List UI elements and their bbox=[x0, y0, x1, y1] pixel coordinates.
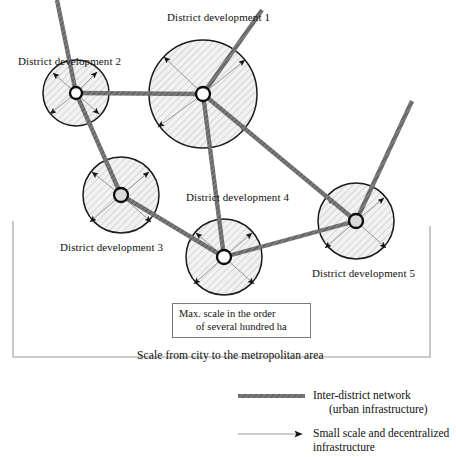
legend-item-inter-district: Inter-district network (urban infrastruc… bbox=[313, 388, 428, 416]
legend-inter-district-line-2: (urban infrastructure) bbox=[313, 402, 428, 416]
frame-caption: Scale from city to the metropolitan area bbox=[137, 349, 324, 362]
legend-small-scale-line-2: infrastructure bbox=[313, 440, 449, 454]
district-label-3: District development 3 bbox=[60, 241, 163, 254]
hub-node-3[interactable] bbox=[114, 188, 128, 202]
hub-node-5[interactable] bbox=[349, 214, 363, 228]
legend-item-small-scale: Small scale and decentralized infrastruc… bbox=[313, 426, 449, 454]
legend-symbols bbox=[238, 396, 305, 434]
max-scale-callout: Max. scale in the order of several hundr… bbox=[172, 303, 311, 338]
figure-canvas: District development 1 District developm… bbox=[0, 0, 456, 457]
max-scale-line-1: Max. scale in the order bbox=[179, 308, 276, 319]
hub-node-1[interactable] bbox=[196, 87, 210, 101]
link-dd2-dd1[interactable] bbox=[76, 93, 203, 94]
district-label-5: District development 5 bbox=[312, 267, 415, 280]
max-scale-line-2: of several hundred ha bbox=[179, 320, 304, 333]
hub-node-2[interactable] bbox=[70, 87, 82, 99]
legend-inter-district-line-1: Inter-district network bbox=[313, 388, 428, 402]
district-label-2: District development 2 bbox=[18, 55, 121, 68]
legend-small-scale-line-1: Small scale and decentralized bbox=[313, 426, 449, 440]
district-label-1: District development 1 bbox=[167, 11, 270, 24]
district-label-4: District development 4 bbox=[186, 191, 289, 204]
hub-node-4[interactable] bbox=[217, 250, 231, 264]
